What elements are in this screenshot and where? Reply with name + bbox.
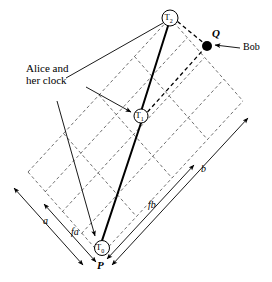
worldline-segment-T0-T1 (102, 123, 141, 241)
leader-line-to-T0 (57, 101, 95, 236)
point-Q-dot (202, 41, 212, 51)
alice-annotation: Alice and her clock (26, 62, 68, 87)
node-T0-label: T0 (96, 243, 104, 254)
point-P-label: P (97, 259, 104, 271)
leader-line-to-Q (215, 45, 240, 48)
worldline-segment-T1-T2 (142, 26, 168, 109)
alice-annotation-line-2: her clock (26, 74, 68, 86)
leader-line-to-T2 (66, 23, 163, 78)
spacetime-diagram-figure: T0 T1 T2 P Q Alice and her clock Bob a f… (0, 0, 272, 282)
vector-a-label: a (43, 215, 48, 226)
signal-T2-to-Q (178, 22, 204, 43)
lattice-line-a-3 (170, 18, 243, 101)
vector-b-arrow (112, 118, 248, 265)
lattice-line-a-1 (28, 172, 101, 255)
leader-line-to-T1 (86, 87, 131, 112)
node-T2-label: T2 (165, 13, 173, 24)
node-T1-label: T1 (136, 111, 144, 122)
vector-b-label: b (201, 163, 206, 174)
bob-annotation: Bob (243, 41, 260, 52)
diagram-svg (0, 0, 272, 282)
vector-fb-arrow (107, 165, 194, 259)
alice-annotation-line-1: Alice and (26, 62, 68, 74)
vector-fb-label: fb (148, 199, 156, 210)
point-Q-label: Q (212, 27, 220, 39)
lattice-line-a-mid-1 (64, 134, 137, 217)
vector-fa-label: fa (71, 226, 79, 237)
signal-T1-to-Q (148, 50, 204, 113)
